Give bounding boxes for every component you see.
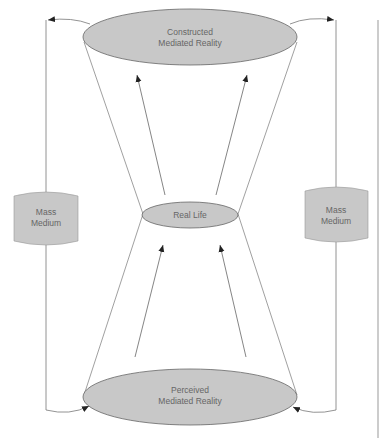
perceived-line2: Mediated Reality: [158, 396, 222, 406]
mass-medium-right-line2: Medium: [321, 216, 351, 226]
perceived-mediated-reality-node: Perceived Mediated Reality: [83, 369, 297, 425]
constructed-line2: Mediated Reality: [158, 38, 222, 48]
mass-medium-left-node: Mass Medium: [14, 192, 78, 245]
constructed-mediated-reality-node: Constructed Mediated Reality: [83, 9, 297, 65]
mass-medium-right-node: Mass Medium: [305, 187, 368, 242]
real-life-label: Real Life: [173, 210, 207, 220]
perceived-line1: Perceived: [171, 385, 209, 395]
real-life-node: Real Life: [142, 202, 238, 228]
mass-medium-right-line1: Mass: [326, 205, 346, 215]
mediated-reality-diagram: Constructed Mediated Reality Real Life P…: [0, 0, 387, 438]
mass-medium-left-line2: Medium: [31, 218, 61, 228]
constructed-line1: Constructed: [167, 27, 213, 37]
mass-medium-left-line1: Mass: [36, 207, 56, 217]
